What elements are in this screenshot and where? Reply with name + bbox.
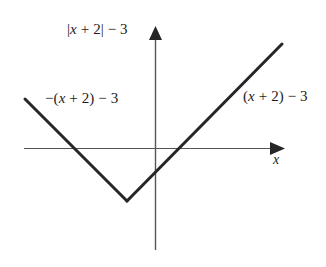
left-branch-label: −(x + 2) − 3 bbox=[45, 91, 118, 106]
right-branch-label-minus-three: − 3 bbox=[284, 88, 308, 104]
y-axis-label-variable: x bbox=[70, 21, 77, 37]
left-branch-label-plus-two: + 2) bbox=[65, 90, 94, 106]
y-axis-label-minus-three: − 3 bbox=[104, 21, 128, 37]
right-branch-label: (x + 2) − 3 bbox=[243, 89, 308, 104]
right-branch-label-plus-two: + 2) bbox=[255, 88, 284, 104]
y-axis-label: |x + 2| − 3 bbox=[67, 22, 128, 37]
y-axis-arrowhead-icon bbox=[149, 26, 162, 40]
right-branch-label-variable: x bbox=[248, 88, 255, 104]
left-branch-label-minus-three: − 3 bbox=[94, 90, 118, 106]
graph-canvas bbox=[0, 0, 326, 267]
x-axis-label: x bbox=[273, 153, 279, 167]
right-branch-line bbox=[127, 44, 282, 201]
absolute-value-graph-figure: |x + 2| − 3 −(x + 2) − 3 (x + 2) − 3 x bbox=[0, 0, 326, 267]
left-branch-line bbox=[25, 99, 127, 201]
y-axis-label-plus-two: + 2 bbox=[77, 21, 101, 37]
left-branch-label-lead: −( bbox=[45, 90, 59, 106]
